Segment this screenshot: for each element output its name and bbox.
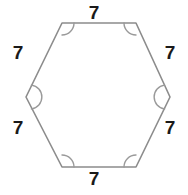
angle-arc-top-left bbox=[62, 23, 74, 35]
hexagon-diagram bbox=[0, 0, 188, 195]
side-label-bottom: 7 bbox=[84, 169, 104, 188]
side-label-lower-left: 7 bbox=[8, 118, 28, 137]
angle-arc-bottom-right bbox=[124, 155, 136, 167]
angle-arc-bottom-left bbox=[62, 155, 74, 167]
geometry-figure-canvas: 7 7 7 7 7 7 bbox=[0, 0, 188, 195]
side-label-top: 7 bbox=[84, 3, 104, 22]
hexagon-outline bbox=[26, 23, 170, 167]
side-label-upper-left: 7 bbox=[8, 43, 28, 62]
angle-arc-left bbox=[31, 85, 41, 109]
side-label-lower-right: 7 bbox=[160, 118, 180, 137]
angle-arc-right bbox=[154, 85, 164, 109]
side-label-upper-right: 7 bbox=[160, 43, 180, 62]
angle-arc-top-right bbox=[124, 23, 136, 35]
